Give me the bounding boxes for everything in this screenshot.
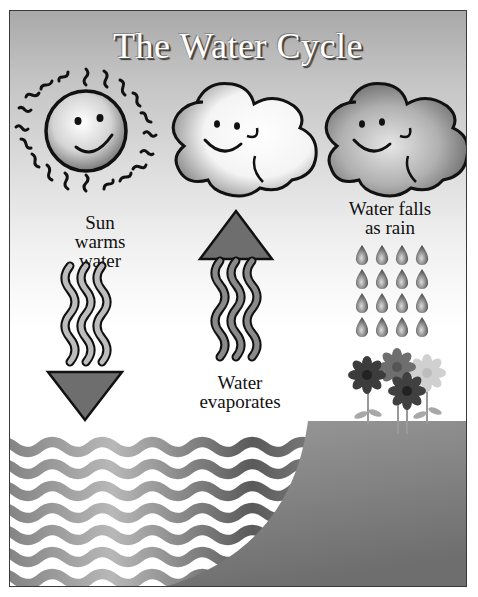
smiling-sun-icon [16,63,156,203]
smiling-white-cloud-icon [155,76,320,201]
up-arrow-icon [196,207,276,367]
flowers [345,349,460,434]
sun-warms-water-label: Sun warms water [50,213,150,270]
poster-title: The Water Cycle [10,25,466,67]
water-cycle-poster: The Water Cycle [9,10,467,587]
smiling-dark-cloud-icon [310,76,467,201]
water-falls-as-rain-label: Water falls as rain [330,199,450,237]
water-evaporates-label: Water evaporates [180,373,300,411]
land-hill [140,416,467,587]
raindrops-grid [350,243,440,343]
down-arrow-icon [46,266,126,426]
